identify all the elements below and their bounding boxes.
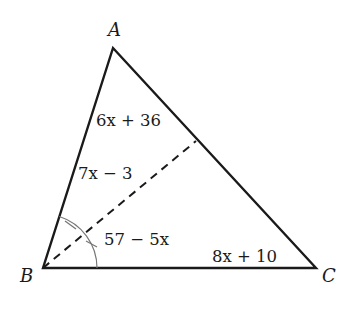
tick-mark-upper (65, 221, 76, 229)
angle-label-a: 6x + 36 (96, 111, 161, 130)
vertex-label-c: C (322, 265, 336, 286)
angle-label-dbc: 57 − 5x (104, 230, 170, 249)
angle-label-abd: 7x − 3 (78, 164, 133, 183)
vertex-label-b: B (19, 265, 33, 286)
triangle-diagram: A B C 6x + 36 7x − 3 57 − 5x 8x + 10 (0, 0, 362, 318)
angle-label-c: 8x + 10 (212, 247, 277, 266)
vertex-label-a: A (106, 19, 121, 40)
tick-mark-lower (86, 241, 97, 247)
angle-arc-B (59, 217, 97, 269)
triangle-abc (43, 48, 316, 268)
triangle-outline (43, 48, 316, 268)
